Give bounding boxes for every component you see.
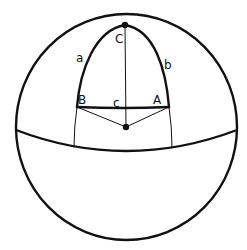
left-meridian-lower <box>74 107 77 147</box>
side-b-arc <box>125 25 169 107</box>
side-c-arc <box>77 107 169 108</box>
right-meridian-lower <box>169 107 172 147</box>
radius-to-A <box>126 107 169 127</box>
label-vertex-A: A <box>153 93 162 107</box>
label-side-b: b <box>164 58 172 72</box>
vertex-C-dot <box>122 22 128 28</box>
label-side-a: a <box>76 51 83 65</box>
label-vertex-B: B <box>78 93 86 107</box>
label-vertex-C: C <box>115 32 123 46</box>
sphere-center-dot <box>123 124 129 130</box>
radius-to-C <box>125 25 126 127</box>
radius-to-B <box>77 107 126 127</box>
spherical-triangle-diagram: C a b B c A <box>0 0 247 250</box>
equator-arc <box>16 130 237 151</box>
label-side-c: c <box>113 96 120 110</box>
